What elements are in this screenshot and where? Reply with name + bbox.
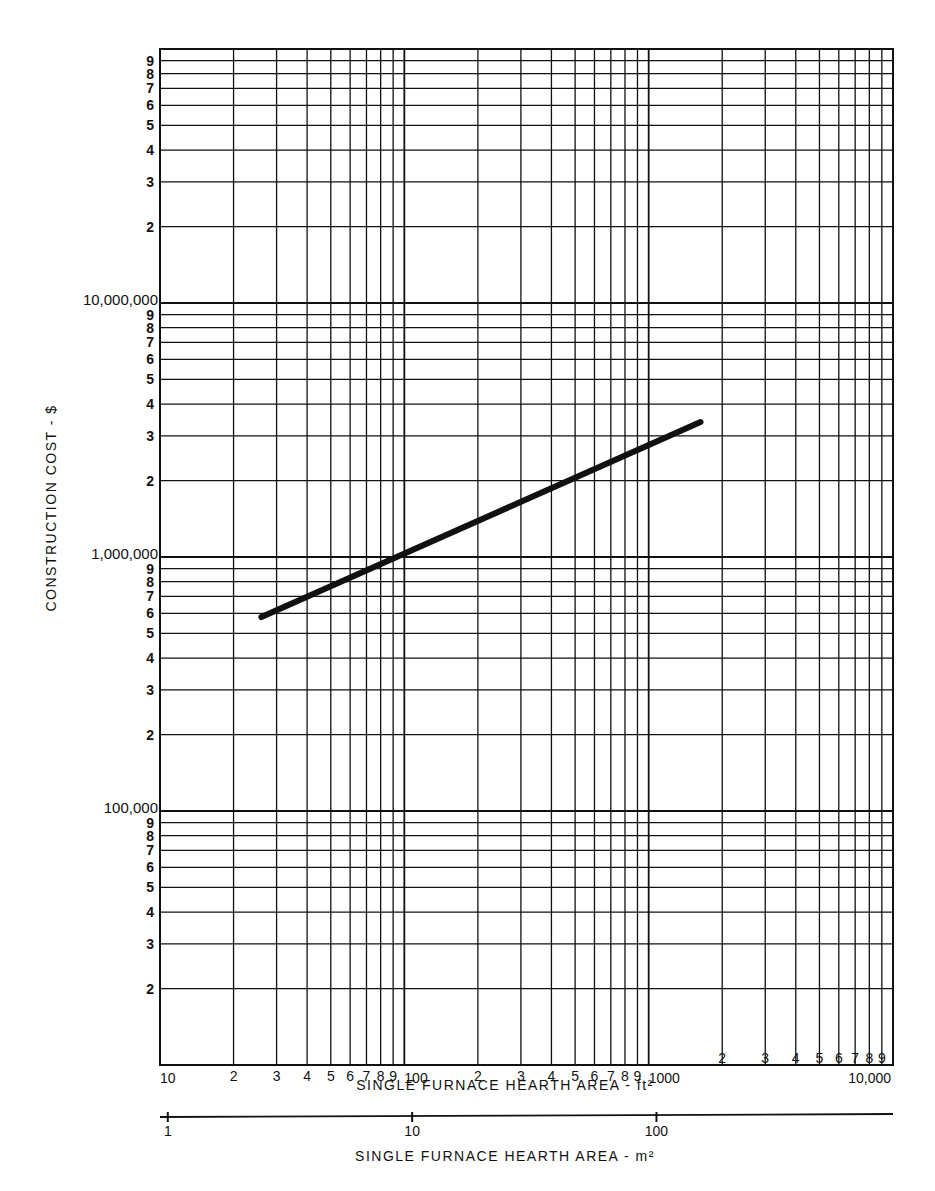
x-tick-label: 8 bbox=[865, 1050, 873, 1066]
y-tick-label: 4 bbox=[146, 650, 154, 666]
y-tick-label: 3 bbox=[146, 428, 154, 444]
y-tick-label: 4 bbox=[146, 142, 154, 158]
series-line bbox=[261, 422, 700, 617]
x-tick-label: 3 bbox=[761, 1050, 769, 1066]
y-decade-label: 100,000 bbox=[104, 799, 158, 816]
secondary-x-axis: 110100 bbox=[160, 1112, 893, 1139]
y-tick-label: 9 bbox=[146, 561, 154, 577]
x-tick-label: 2 bbox=[230, 1068, 238, 1084]
y-tick-label: 3 bbox=[146, 174, 154, 190]
secondary-tick-label: 100 bbox=[645, 1123, 669, 1139]
y-tick-label: 9 bbox=[146, 53, 154, 69]
x-decade-label: 10 bbox=[160, 1070, 176, 1086]
y-tick-label: 3 bbox=[146, 682, 154, 698]
y-tick-label: 5 bbox=[146, 879, 154, 895]
y-tick-label: 2 bbox=[146, 219, 154, 235]
y-tick-label: 7 bbox=[146, 80, 154, 96]
y-tick-label: 7 bbox=[146, 334, 154, 350]
y-tick-label: 4 bbox=[146, 396, 154, 412]
y-tick-label: 9 bbox=[146, 307, 154, 323]
series-group bbox=[261, 422, 700, 617]
y-decade-label: 1,000,000 bbox=[91, 545, 158, 562]
y-decade-label: 10,000,000 bbox=[83, 291, 158, 308]
y-tick-labels: 23456789234567892345678923456789100,0001… bbox=[83, 53, 158, 997]
y-tick-label: 2 bbox=[146, 473, 154, 489]
x-tick-label: 6 bbox=[346, 1068, 354, 1084]
y-tick-label: 6 bbox=[146, 97, 154, 113]
x-tick-label: 6 bbox=[835, 1050, 843, 1066]
x-tick-label: 2 bbox=[718, 1050, 726, 1066]
y-tick-label: 2 bbox=[146, 981, 154, 997]
y-tick-label: 7 bbox=[146, 588, 154, 604]
y-tick-label: 5 bbox=[146, 625, 154, 641]
y-tick-label: 5 bbox=[146, 371, 154, 387]
y-tick-label: 7 bbox=[146, 842, 154, 858]
y-tick-label: 9 bbox=[146, 815, 154, 831]
x-axis-label-secondary: SINGLE FURNACE HEARTH AREA - m² bbox=[355, 1148, 655, 1164]
secondary-tick-label: 1 bbox=[164, 1123, 172, 1139]
x-tick-label: 5 bbox=[816, 1050, 824, 1066]
secondary-axis-line bbox=[160, 1114, 893, 1117]
y-tick-label: 4 bbox=[146, 904, 154, 920]
chart: 23456789234567892345678923456789100,0001… bbox=[0, 0, 935, 1191]
x-tick-label: 4 bbox=[792, 1050, 800, 1066]
horizontal-gridlines bbox=[160, 61, 893, 1065]
y-tick-label: 6 bbox=[146, 351, 154, 367]
y-tick-label: 6 bbox=[146, 859, 154, 875]
y-tick-label: 5 bbox=[146, 117, 154, 133]
x-tick-label: 9 bbox=[878, 1050, 886, 1066]
x-tick-label: 4 bbox=[303, 1068, 311, 1084]
y-tick-label: 2 bbox=[146, 727, 154, 743]
y-tick-label: 6 bbox=[146, 605, 154, 621]
y-axis-label: CONSTRUCTION COST - $ bbox=[43, 404, 59, 611]
x-tick-label: 5 bbox=[327, 1068, 335, 1084]
x-tick-label: 7 bbox=[851, 1050, 859, 1066]
secondary-tick-label: 10 bbox=[404, 1123, 420, 1139]
x-decade-label: 10,000 bbox=[848, 1070, 891, 1086]
y-tick-label: 3 bbox=[146, 936, 154, 952]
x-axis-label: SINGLE FURNACE HEARTH AREA - ft² bbox=[356, 1077, 653, 1093]
x-tick-label: 3 bbox=[273, 1068, 281, 1084]
